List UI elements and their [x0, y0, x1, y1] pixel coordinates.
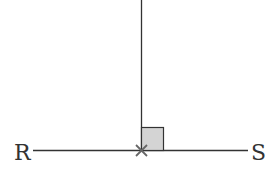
label-r: R [14, 140, 32, 165]
perpendicular-diagram: R S [0, 0, 279, 177]
label-s: S [251, 140, 266, 165]
